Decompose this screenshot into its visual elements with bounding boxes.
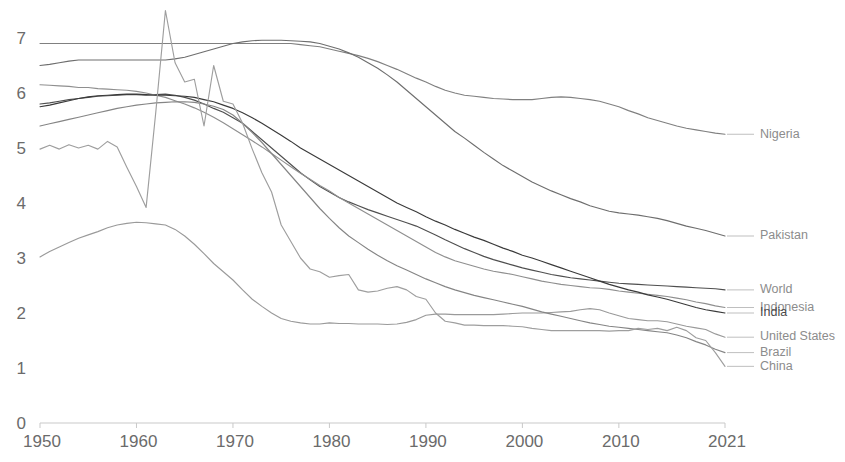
series-label-brazil: Brazil <box>760 345 791 359</box>
series-line-nigeria <box>40 44 725 135</box>
y-tick-4: 4 <box>17 194 26 213</box>
y-tick-1: 1 <box>17 359 26 378</box>
x-tick-2000: 2000 <box>505 432 543 451</box>
chart-svg: 01234567 1950196019701980199020002010202… <box>0 0 845 462</box>
series-label-world: World <box>760 282 792 296</box>
series-line-pakistan <box>40 40 725 236</box>
label-leader-lines <box>727 134 754 366</box>
series-label-india: India <box>760 305 787 319</box>
y-tick-3: 3 <box>17 249 26 268</box>
series-line-united-states <box>40 222 725 337</box>
x-tick-1970: 1970 <box>216 432 254 451</box>
x-axis-tick-labels: 19501960197019801990200020102021 <box>23 432 746 451</box>
fertility-rate-line-chart: 01234567 1950196019701980199020002010202… <box>0 0 845 462</box>
x-tick-2010: 2010 <box>602 432 640 451</box>
series-label-nigeria: Nigeria <box>760 127 800 141</box>
x-tick-1980: 1980 <box>313 432 351 451</box>
series-lines-group <box>40 11 725 367</box>
y-tick-7: 7 <box>17 29 26 48</box>
y-tick-5: 5 <box>17 139 26 158</box>
series-line-brazil <box>40 102 725 353</box>
x-tick-1960: 1960 <box>120 432 158 451</box>
x-axis <box>40 423 725 428</box>
series-label-pakistan: Pakistan <box>760 228 808 242</box>
series-line-world <box>40 94 725 290</box>
x-tick-1950: 1950 <box>23 432 61 451</box>
x-tick-1990: 1990 <box>409 432 447 451</box>
series-line-india <box>40 94 725 313</box>
y-tick-0: 0 <box>17 414 26 433</box>
series-label-china: China <box>760 359 793 373</box>
series-labels-group: NigeriaPakistanWorldIndonesiaIndiaUnited… <box>760 127 835 373</box>
series-line-indonesia <box>40 85 725 308</box>
y-tick-2: 2 <box>17 304 26 323</box>
y-tick-6: 6 <box>17 84 26 103</box>
x-tick-2021: 2021 <box>708 432 746 451</box>
series-label-united-states: United States <box>760 329 835 343</box>
y-axis-tick-labels: 01234567 <box>17 29 26 433</box>
